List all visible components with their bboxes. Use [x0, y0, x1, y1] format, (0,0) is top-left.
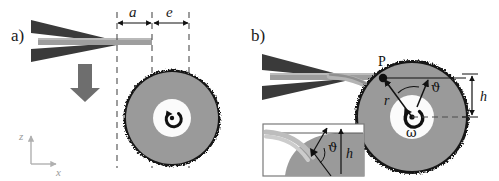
- axes-indicator: z x: [18, 130, 61, 178]
- h-dimension-label: h: [480, 89, 487, 104]
- cantilever-holder-lower-wedge-b: [262, 79, 345, 100]
- figure-root: a) a e: [0, 0, 499, 181]
- radius-label-r: r: [384, 93, 390, 108]
- cantilever-holder-lower-wedge: [31, 43, 117, 62]
- dimension-label-e: e: [166, 4, 173, 20]
- contact-point-label-p: P: [378, 54, 386, 69]
- rotating-disk-a: [124, 70, 221, 167]
- omega-label: ω: [406, 125, 417, 140]
- dimension-label-a: a: [129, 4, 137, 20]
- panel-a-label: a): [11, 26, 24, 45]
- panel-b-label: b): [251, 26, 265, 45]
- inset-group: ϑ h: [263, 124, 364, 176]
- cantilever-beam-highlight: [38, 38, 152, 40]
- approach-arrow: [70, 64, 100, 102]
- panel-a-group: a) a e: [11, 4, 221, 178]
- figure-canvas: a) a e: [0, 0, 499, 181]
- inset-h-label: h: [346, 146, 353, 161]
- axis-x-label: x: [55, 166, 61, 178]
- inset-angle-label: ϑ: [328, 140, 337, 155]
- angle-label-theta: ϑ: [431, 80, 440, 95]
- axis-z-label: z: [18, 130, 24, 142]
